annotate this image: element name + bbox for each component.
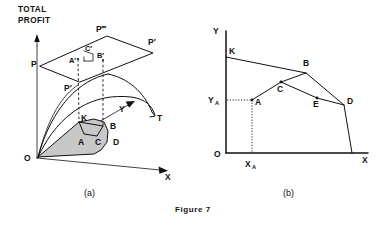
panel-b-caption: (b) bbox=[283, 188, 294, 198]
panel-a-vertical-axis bbox=[34, 34, 40, 158]
panel-a-label-cprime: C′ bbox=[85, 44, 92, 53]
panel-b-segment-kb bbox=[226, 57, 306, 73]
panel-a-label-aprime: A′ bbox=[69, 56, 76, 65]
panel-a-point-aprime bbox=[77, 58, 79, 60]
panel-b-point-a bbox=[251, 99, 254, 102]
panel-b-segment-d-to-x bbox=[344, 105, 352, 153]
panel-a-total-label: TOTAL bbox=[18, 5, 47, 14]
svg-text:A: A bbox=[252, 164, 256, 170]
figure-7-svg: TOTAL PROFIT O X Y P P‴ P′ P′ T A′ B′ C′… bbox=[0, 0, 387, 225]
panel-b-label-c: C bbox=[277, 84, 283, 94]
panel-a-label-a: A bbox=[78, 137, 84, 147]
figure-caption: Figure 7 bbox=[175, 205, 211, 214]
figure-7-container: TOTAL PROFIT O X Y P P‴ P′ P′ T A′ B′ C′… bbox=[0, 0, 387, 225]
panel-a-x-axis-label: X bbox=[165, 172, 171, 182]
panel-b-label-k: K bbox=[229, 46, 236, 56]
panel-a-label-p-top: P‴ bbox=[96, 24, 107, 34]
panel-b-label-a: A bbox=[255, 97, 261, 107]
panel-a-label-c: C bbox=[95, 137, 101, 147]
panel-a-y-axis-label: Y bbox=[119, 104, 125, 114]
panel-a-x-axis bbox=[37, 158, 168, 174]
panel-b-label-d: D bbox=[347, 96, 353, 106]
panel-b-group: Y X O Y A X A K A B C E D (b) bbox=[208, 26, 368, 198]
panel-a-label-p-left: P bbox=[31, 59, 37, 69]
panel-a-profit-label: PROFIT bbox=[18, 16, 50, 25]
panel-a-label-b: B bbox=[110, 121, 116, 131]
panel-b-label-b: B bbox=[303, 58, 309, 68]
panel-b-tick-x-label: X A bbox=[245, 159, 256, 170]
panel-a-origin-label: O bbox=[24, 153, 31, 163]
panel-b-tick-y-label: Y A bbox=[208, 95, 219, 106]
panel-a-label-k: K bbox=[81, 113, 88, 123]
svg-text:A: A bbox=[215, 100, 219, 106]
panel-a-caption: (a) bbox=[84, 188, 95, 198]
panel-b-point-c bbox=[280, 81, 283, 84]
svg-text:Y: Y bbox=[208, 95, 214, 105]
panel-a-label-p-lower: P′ bbox=[64, 83, 72, 93]
panel-b-label-e: E bbox=[313, 99, 319, 109]
panel-a-label-bprime: B′ bbox=[97, 51, 104, 60]
panel-a-group: TOTAL PROFIT O X Y P P‴ P′ P′ T A′ B′ C′… bbox=[18, 5, 171, 198]
panel-b-y-axis-label: Y bbox=[213, 26, 219, 36]
panel-a-projector-a bbox=[78, 59, 79, 122]
panel-a-label-p-right: P′ bbox=[148, 37, 156, 47]
panel-a-label-t: T bbox=[157, 113, 163, 123]
panel-b-x-axis-label: X bbox=[362, 155, 368, 165]
panel-a-label-d: D bbox=[113, 137, 119, 147]
svg-text:X: X bbox=[245, 159, 251, 169]
panel-b-origin-label: O bbox=[214, 149, 221, 159]
